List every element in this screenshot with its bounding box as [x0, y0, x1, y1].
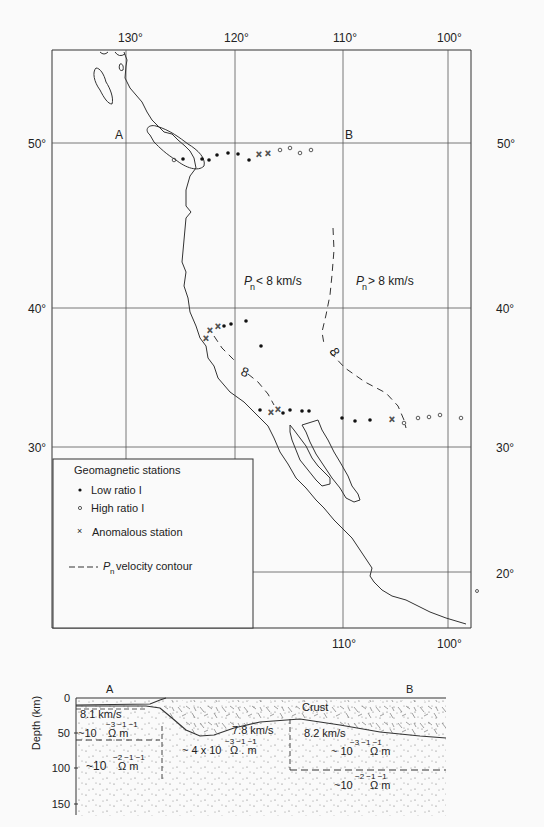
lat-label-right-30: 30°: [496, 441, 514, 455]
lon-label-120: 120°: [224, 31, 249, 45]
svg-text:~10: ~10: [334, 779, 353, 791]
lon-label-bottom-110: 110°: [332, 637, 356, 651]
figure-canvas: 130° 120° 110° 100° 50° 40° 30° 50° 40° …: [0, 0, 544, 827]
crust-label: Crust: [302, 701, 328, 713]
cross-section: A B Depth (km) 0 50 100 150 Crust 8.1: [30, 683, 446, 816]
lat-label-right-40: 40°: [496, 302, 514, 316]
svg-text:Ω m: Ω m: [118, 760, 138, 772]
lon-label-110: 110°: [333, 31, 357, 45]
svg-text:Ω . m: Ω . m: [230, 744, 257, 756]
profile-label-b: B: [345, 128, 353, 142]
svg-text:×: ×: [275, 404, 281, 415]
legend-title: Geomagnetic stations: [74, 464, 181, 476]
svg-text:~10: ~10: [78, 727, 97, 739]
lon-label-bottom-100: 100°: [437, 637, 462, 651]
svg-text:×: ×: [389, 414, 395, 425]
svg-text:n: n: [362, 282, 367, 292]
svg-text:< 8 km/s: < 8 km/s: [256, 274, 302, 288]
svg-text:Ω m: Ω m: [370, 745, 390, 757]
region-label-west: P n < 8 km/s: [244, 274, 302, 292]
velocity-label-3: 8.2 km/s: [304, 727, 346, 739]
cross-icon: ×: [77, 526, 82, 536]
svg-text:~ 4 x 10: ~ 4 x 10: [182, 744, 221, 756]
lat-label-left-50: 50°: [28, 137, 46, 151]
svg-text:150: 150: [52, 798, 70, 810]
region-label-east: P n > 8 km/s: [356, 274, 414, 292]
svg-text:Ω m: Ω m: [370, 779, 390, 791]
lat-label-right-50: 50°: [497, 137, 515, 151]
lon-label-130: 130°: [118, 31, 143, 45]
lat-label-left-40: 40°: [28, 302, 46, 316]
map: 130° 120° 110° 100° 50° 40° 30° 50° 40° …: [28, 31, 515, 651]
legend-high-ratio: High ratio I: [91, 502, 144, 514]
svg-text:n: n: [250, 282, 255, 292]
lat-label-right-20: 20°: [496, 567, 514, 581]
profile-label-a: A: [115, 128, 123, 142]
svg-text:~ 10: ~ 10: [331, 745, 353, 757]
legend-anomalous: Anomalous station: [92, 526, 183, 538]
lat-label-left-30: 30°: [28, 441, 46, 455]
svg-text:×: ×: [265, 148, 271, 159]
svg-text:100: 100: [52, 762, 70, 774]
svg-text:~10: ~10: [86, 759, 107, 773]
svg-text:×: ×: [268, 407, 274, 418]
y-axis-label: Depth (km): [30, 696, 42, 750]
section-end-a: A: [106, 683, 114, 695]
legend: Geomagnetic stations Low ratio I High ra…: [53, 459, 253, 628]
legend-pn-contour: velocity contour: [116, 560, 193, 572]
velocity-label-1: 8.1 km/s: [80, 708, 122, 720]
section-end-b: B: [406, 683, 413, 695]
svg-text:×: ×: [256, 149, 262, 160]
svg-text:50: 50: [58, 727, 70, 739]
velocity-label-2: 7.8 km/s: [232, 724, 274, 736]
svg-text:n: n: [110, 567, 114, 576]
pn-velocity-contour: [214, 228, 406, 428]
svg-text:0: 0: [64, 692, 70, 704]
lon-label-100: 100°: [437, 31, 462, 45]
filled-dot-icon: [78, 488, 81, 491]
svg-text:> 8 km/s: > 8 km/s: [368, 274, 414, 288]
svg-text:Ω m: Ω m: [108, 727, 128, 739]
svg-text:×: ×: [215, 321, 221, 332]
contour-label-west: 8: [239, 364, 251, 381]
legend-low-ratio: Low ratio I: [91, 484, 142, 496]
svg-text:×: ×: [203, 333, 209, 344]
